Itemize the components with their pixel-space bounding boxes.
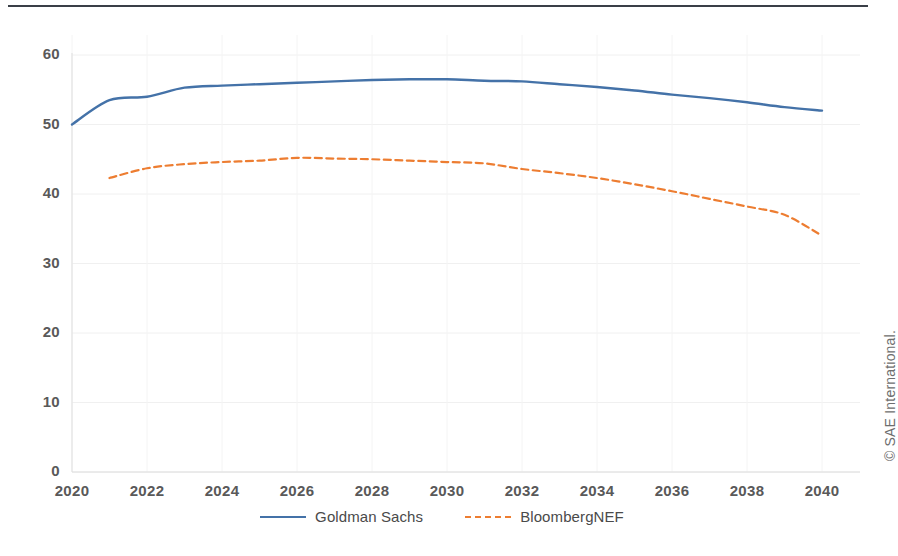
y-tick-label: 0 [18,462,60,479]
x-tick-label: 2024 [187,482,257,499]
legend-swatch-solid-icon [260,516,306,518]
y-tick-label: 60 [18,45,60,62]
legend-label-goldman-sachs: Goldman Sachs [315,508,423,525]
chart-legend: Goldman Sachs BloombergNEF [0,508,884,525]
x-tick-label: 2040 [787,482,857,499]
axis-lines [72,53,860,472]
legend-label-bloombergnef: BloombergNEF [520,508,624,525]
x-tick-label: 2026 [262,482,332,499]
y-tick-label: 20 [18,323,60,340]
copyright-notice: © SAE International. [882,330,898,461]
x-tick-label: 2030 [412,482,482,499]
y-tick-label: 10 [18,393,60,410]
x-tick-label: 2036 [637,482,707,499]
series-line-bloombergnef [110,158,823,236]
y-tick-label: 50 [18,115,60,132]
x-tick-label: 2028 [337,482,407,499]
x-tick-label: 2022 [112,482,182,499]
x-tick-label: 2034 [562,482,632,499]
y-tick-label: 30 [18,254,60,271]
x-tick-label: 2038 [712,482,782,499]
legend-item-bloombergnef: BloombergNEF [465,508,624,525]
y-tick-label: 40 [18,184,60,201]
legend-swatch-dashed-icon [465,516,511,518]
x-tick-label: 2032 [487,482,557,499]
x-tick-label: 2020 [37,482,107,499]
legend-item-goldman-sachs: Goldman Sachs [260,508,423,525]
